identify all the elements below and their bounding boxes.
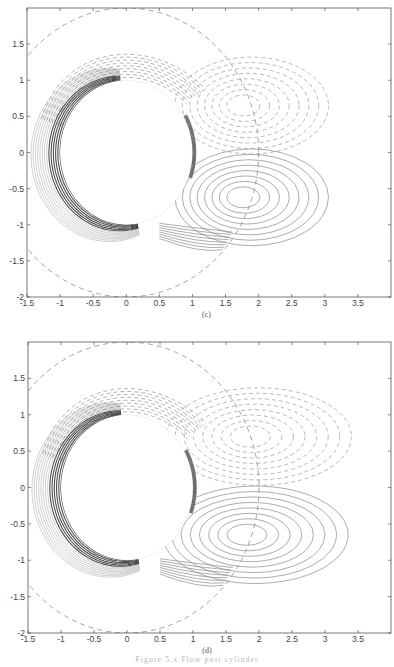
x-tick-label: 1.5 — [220, 634, 232, 644]
y-tick-label: 1 — [19, 75, 24, 85]
y-tick-label: 1.5 — [12, 39, 24, 49]
y-tick-label: 1 — [20, 410, 25, 420]
x-tick-label: 1.5 — [220, 298, 232, 308]
x-tick-label: 3 — [323, 634, 328, 644]
y-tick-label: -1 — [17, 555, 25, 565]
plot-area — [0, 342, 351, 633]
cylinder — [60, 80, 192, 225]
figure-caption: Figure 5.x Flow past cylinder — [0, 655, 394, 664]
y-tick-label: -1.5 — [9, 256, 24, 266]
panel-label: (d) — [202, 646, 212, 654]
x-tick-label: 3.5 — [352, 298, 364, 308]
contour-plot-d: -1.5-1-0.500.511.522.533.51.510.50-0.5-1… — [0, 334, 394, 654]
y-tick-label: -2 — [17, 628, 25, 638]
x-tick-label: 0.5 — [154, 634, 166, 644]
figure-panel-c: -1.5-1-0.500.511.522.533.51.510.50-0.5-1… — [0, 0, 394, 320]
plot-area — [0, 8, 328, 297]
y-tick-label: 0 — [19, 148, 24, 158]
y-tick-label: -2 — [16, 292, 24, 302]
x-tick-label: 3 — [322, 298, 327, 308]
x-tick-label: 0 — [125, 634, 130, 644]
x-tick-label: 2 — [256, 298, 261, 308]
x-tick-label: 0.5 — [153, 298, 165, 308]
x-tick-label: -1 — [57, 634, 65, 644]
cylinder — [61, 415, 193, 561]
x-tick-label: -1 — [56, 298, 64, 308]
y-tick-label: 0.5 — [13, 446, 25, 456]
y-tick-label: 1.5 — [13, 373, 25, 383]
y-tick-label: 0.5 — [12, 111, 24, 121]
x-tick-label: 0 — [124, 298, 129, 308]
y-tick-label: -0.5 — [10, 519, 25, 529]
x-tick-label: 2 — [257, 634, 262, 644]
x-tick-label: 2.5 — [286, 298, 298, 308]
x-tick-label: 1 — [191, 634, 196, 644]
x-tick-label: 3.5 — [352, 634, 364, 644]
x-tick-label: 1 — [190, 298, 195, 308]
y-tick-label: -1 — [16, 220, 24, 230]
x-tick-label: -0.5 — [87, 634, 102, 644]
y-tick-label: -1.5 — [10, 592, 25, 602]
contour-plot-c: -1.5-1-0.500.511.522.533.51.510.50-0.5-1… — [0, 0, 394, 320]
x-tick-label: 2.5 — [286, 634, 298, 644]
panel-label: (c) — [202, 310, 211, 319]
y-tick-label: 0 — [20, 483, 25, 493]
figure-panel-d: -1.5-1-0.500.511.522.533.51.510.50-0.5-1… — [0, 334, 394, 654]
y-tick-label: -0.5 — [9, 184, 24, 194]
x-tick-label: -0.5 — [86, 298, 101, 308]
